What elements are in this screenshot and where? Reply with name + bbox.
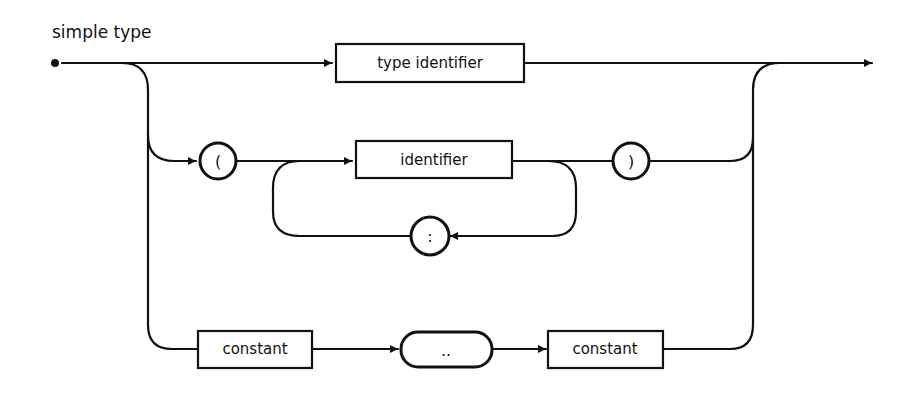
- open-paren-label: (: [215, 152, 221, 171]
- close-paren-node: ): [613, 143, 649, 179]
- close-paren-label: ): [628, 152, 634, 171]
- constant-label-1: constant: [222, 340, 287, 358]
- constant-label-2: constant: [572, 340, 637, 358]
- type-identifier-node: type identifier: [336, 44, 524, 82]
- syntax-diagram: type identifier ( identifier ) : constan…: [0, 0, 918, 395]
- identifier-node: identifier: [356, 141, 512, 178]
- type-identifier-label: type identifier: [377, 54, 483, 72]
- start-dot: [51, 59, 59, 67]
- right-branch-line: [663, 63, 780, 349]
- range-node: ..: [401, 332, 492, 367]
- constant-node-1: constant: [198, 331, 312, 368]
- identifier-label: identifier: [400, 151, 468, 169]
- range-label: ..: [441, 341, 451, 360]
- line-to-open-paren: [148, 135, 196, 161]
- left-branch-line: [122, 63, 198, 349]
- comma-node: :: [411, 217, 449, 255]
- comma-label: :: [427, 227, 432, 246]
- constant-node-2: constant: [548, 331, 663, 368]
- open-paren-node: (: [200, 143, 236, 179]
- line-close-paren-to-end: [649, 138, 753, 161]
